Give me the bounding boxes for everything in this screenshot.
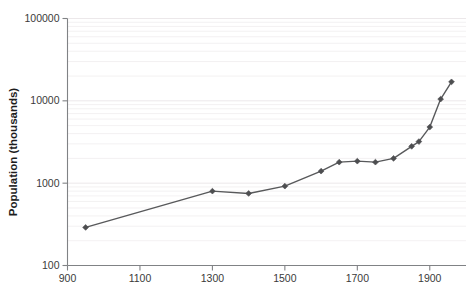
y-tick-label: 1000 <box>36 177 60 189</box>
y-tick-label: 100000 <box>24 12 59 24</box>
y-axis-tick-labels: 100100010000100000 <box>24 12 59 271</box>
x-tick-label: 1500 <box>273 272 297 284</box>
x-axis-tick-labels: 90011001300150017001900 <box>59 272 442 284</box>
y-tick-label: 10000 <box>30 94 59 106</box>
data-point-marker <box>282 183 288 189</box>
data-point-marker <box>373 159 379 165</box>
y-axis-ticks <box>63 19 68 266</box>
chart-figure: 100100010000100000 900110013001500170019… <box>0 0 470 291</box>
data-point-marker <box>210 188 216 194</box>
x-tick-label: 900 <box>59 272 77 284</box>
x-tick-label: 1700 <box>346 272 370 284</box>
data-point-marker <box>318 168 324 174</box>
minor-gridlines <box>68 22 467 240</box>
data-point-marker <box>336 159 342 165</box>
data-line <box>86 82 452 228</box>
data-point-marker <box>83 225 89 231</box>
population-line-chart: 100100010000100000 900110013001500170019… <box>0 0 470 291</box>
y-axis-title: Population (thousands) <box>7 88 19 217</box>
x-axis-ticks <box>68 266 430 271</box>
x-tick-label: 1100 <box>129 272 152 284</box>
data-point-marker <box>354 158 360 164</box>
x-tick-label: 1900 <box>418 272 442 284</box>
axis-lines <box>68 19 467 266</box>
y-tick-label: 100 <box>42 259 60 271</box>
x-tick-label: 1300 <box>201 272 225 284</box>
